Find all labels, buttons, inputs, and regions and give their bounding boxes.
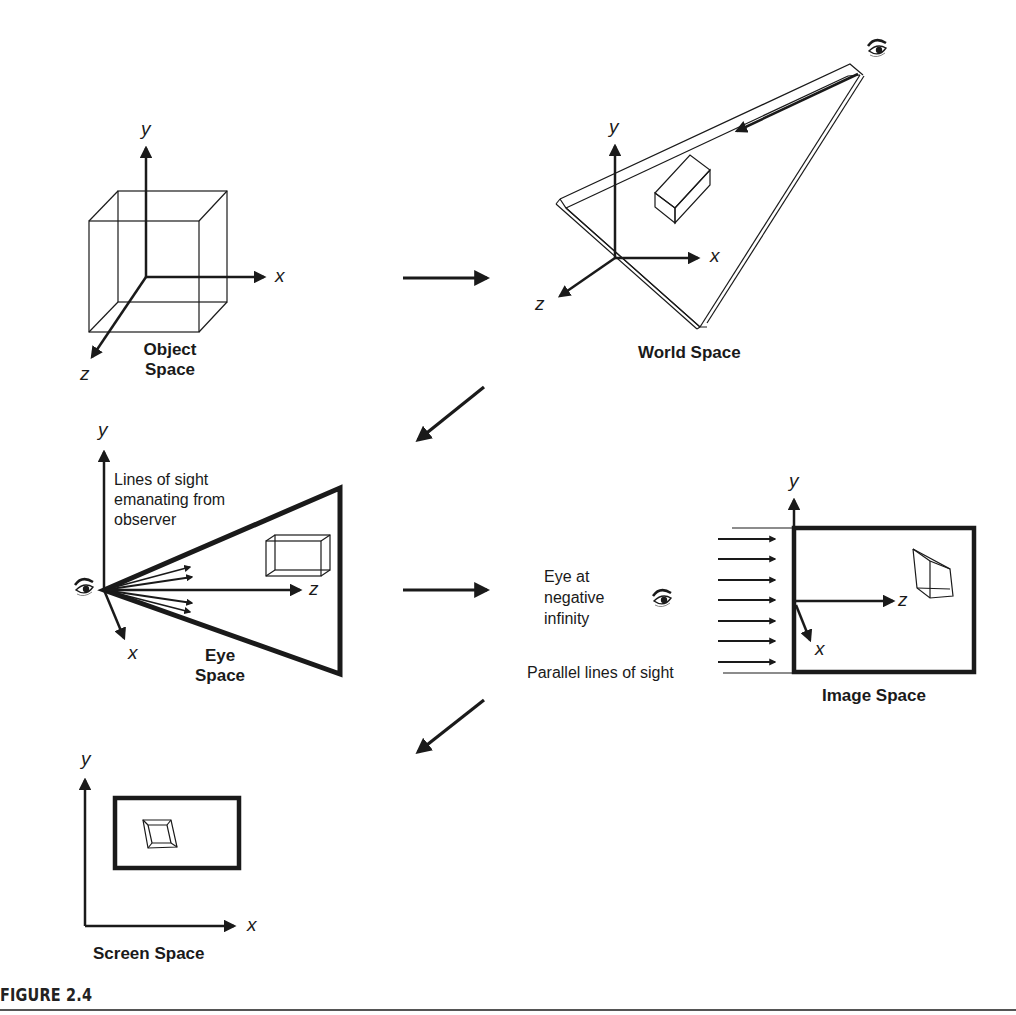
world-view-direction-arrow — [737, 74, 858, 131]
world-z-label: z — [535, 293, 545, 315]
figure-caption: FIGURE 2.4 — [0, 985, 92, 1005]
image-x-axis — [796, 605, 810, 640]
eye-at-infinity-note: Eye at negative infinity — [544, 566, 605, 629]
screen-space-panel — [85, 780, 239, 926]
object-cube — [89, 191, 227, 332]
arrow-image-to-screen — [418, 700, 484, 752]
screen-x-label: x — [247, 914, 257, 936]
eye-y-label: y — [98, 419, 108, 441]
screen-viewport — [115, 798, 239, 868]
world-view-volume — [556, 64, 864, 329]
world-space-title: World Space — [638, 343, 741, 363]
eye-object-box — [266, 535, 330, 576]
screen-y-label: y — [81, 748, 91, 770]
flow-arrows — [403, 278, 487, 752]
image-space-title: Image Space — [822, 686, 926, 706]
image-z-label: z — [898, 589, 908, 611]
eye-icon — [75, 579, 93, 595]
eye-icon — [653, 590, 671, 606]
object-space-panel — [89, 148, 264, 357]
image-space-panel — [718, 500, 974, 673]
eye-x-label: x — [128, 642, 138, 664]
parallel-lines-note: Parallel lines of sight — [527, 664, 674, 682]
world-space-panel — [556, 64, 864, 329]
world-x-label: x — [710, 245, 720, 267]
parallel-lines-of-sight — [718, 528, 794, 673]
object-x-label: x — [275, 265, 285, 287]
eye-space-title: Eye Space — [190, 646, 250, 685]
eye-z-label: z — [309, 578, 319, 600]
object-y-label: y — [141, 118, 151, 140]
object-space-title: Object Space — [128, 340, 212, 379]
image-x-label: x — [815, 638, 825, 660]
world-object-box — [655, 155, 710, 223]
screen-object-projection — [143, 820, 177, 848]
eye-icon — [868, 40, 886, 56]
image-y-label: y — [789, 470, 799, 492]
arrow-world-to-eye — [418, 387, 484, 440]
image-object-box — [913, 549, 953, 598]
screen-space-title: Screen Space — [93, 944, 205, 964]
object-z-label: z — [80, 363, 90, 385]
caption-divider — [0, 1009, 1016, 1011]
world-z-axis — [560, 258, 615, 296]
world-y-label: y — [609, 116, 619, 138]
lines-of-sight-note: Lines of sight emanating from observer — [114, 470, 225, 530]
